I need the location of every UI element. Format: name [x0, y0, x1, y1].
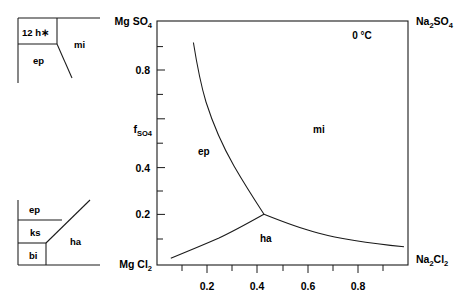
phase-label-ep: ep: [198, 146, 210, 157]
inset-top-label-ep: ep: [33, 55, 44, 66]
inset-top-label-mi: mi: [74, 39, 85, 50]
inset-bottom-label-ha: ha: [70, 236, 82, 247]
x-tick-label-0-2: 0.2: [200, 280, 215, 292]
y-tick-label-0-8: 0.8: [135, 64, 150, 76]
phase-label-mi: mi: [313, 124, 325, 135]
inset-top-diagonal: [57, 44, 72, 78]
x-tick-label-0-4: 0.4: [250, 280, 265, 292]
corner-label-mgso4: Mg SO4: [115, 15, 153, 30]
axis-labels: Mg SO4 Mg Cl2 Na2SO4 Na2Cl2 fSO4: [115, 15, 454, 273]
x-tick-label-0-6: 0.6: [301, 280, 316, 292]
corner-label-na2so4: Na2SO4: [416, 15, 454, 30]
inset-bottom-label-ks: ks: [30, 227, 41, 238]
y-tick-label-0-4: 0.4: [135, 162, 150, 174]
temperature-annotation: 0 °C: [352, 30, 372, 41]
curve-ep-mi-boundary: [193, 43, 264, 215]
x-tick-labels: 0.2 0.4 0.6 0.8: [200, 280, 366, 292]
inset-top: 12 h∗ ep mi: [18, 18, 100, 83]
y-tick-labels: 0.8 0.6 0.4 0.2: [135, 64, 150, 220]
y-tick-label-0-2: 0.2: [135, 208, 150, 220]
main-plot: ep mi ha 0 °C: [157, 21, 408, 273]
inset-bottom-label-ep: ep: [29, 204, 40, 215]
curve-mi-ha-boundary: [264, 214, 404, 247]
plot-frame: [157, 21, 408, 265]
inset-top-label-12h: 12 h∗: [22, 27, 49, 38]
inset-bottom-diagonal: [46, 200, 90, 243]
phase-diagram-figure: 12 h∗ ep mi ep ks bi ha: [0, 0, 472, 306]
curve-ep-ha-boundary: [171, 214, 264, 258]
x-tick-label-0-8: 0.8: [351, 280, 366, 292]
corner-label-mgcl2: Mg Cl2: [119, 258, 152, 273]
y-axis-ticks: [157, 47, 165, 239]
corner-label-na2cl2: Na2Cl2: [416, 253, 448, 268]
yaxis-label-fso4: fSO4: [133, 123, 152, 138]
x-axis-ticks: [182, 265, 383, 273]
inset-bottom-label-bi: bi: [29, 250, 37, 261]
phase-label-ha: ha: [260, 233, 272, 244]
inset-bottom: ep ks bi ha: [18, 200, 100, 265]
